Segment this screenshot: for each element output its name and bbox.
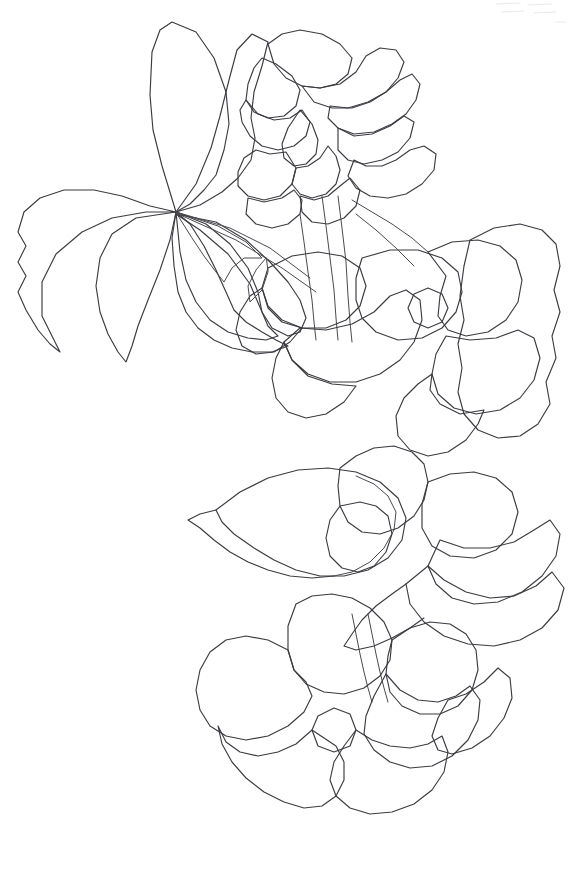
drawing-canvas bbox=[0, 0, 581, 873]
botanical-line-drawing bbox=[0, 0, 581, 873]
